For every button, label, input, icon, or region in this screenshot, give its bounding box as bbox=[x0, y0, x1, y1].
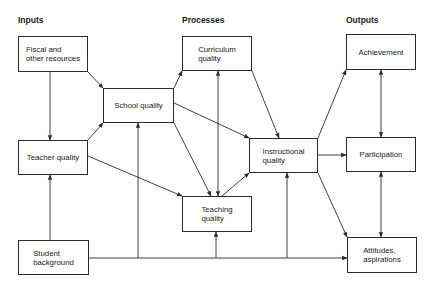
node-participation: Participation bbox=[346, 137, 416, 172]
node-teaching-quality: Teaching quality bbox=[182, 196, 252, 232]
node-participation-label: Participation bbox=[360, 150, 403, 159]
node-school-quality: School quality bbox=[103, 88, 174, 123]
edge-teacher-teaching bbox=[88, 156, 182, 196]
header-outputs: Outputs bbox=[346, 15, 379, 25]
edge-instructional-achievement bbox=[318, 70, 346, 138]
edge-instructional-attitudes bbox=[318, 173, 347, 237]
node-teacher-quality: Teacher quality bbox=[18, 140, 88, 175]
header-inputs: Inputs bbox=[18, 15, 44, 25]
node-instructional-quality-label: Instructional quality bbox=[262, 147, 304, 165]
node-student-background: Student background bbox=[18, 240, 89, 275]
edge-school-curriculum bbox=[174, 71, 182, 88]
node-achievement: Achievement bbox=[346, 34, 416, 70]
node-instructional-quality: Instructional quality bbox=[249, 138, 318, 173]
edge-fiscal-school bbox=[88, 72, 103, 88]
node-fiscal-label: Fiscal and other resources bbox=[26, 45, 80, 63]
node-attitudes: Attitudes, aspirations bbox=[347, 237, 417, 273]
node-curriculum-quality: Curriculum quality bbox=[182, 36, 252, 71]
edge-curriculum-instructional bbox=[252, 71, 279, 138]
node-teaching-quality-label: Teaching quality bbox=[201, 205, 232, 223]
edge-school-instructional bbox=[174, 103, 249, 138]
node-attitudes-label: Attitudes, aspirations bbox=[363, 246, 401, 264]
node-curriculum-quality-label: Curriculum quality bbox=[198, 45, 236, 63]
node-school-quality-label: School quality bbox=[114, 101, 163, 110]
node-fiscal: Fiscal and other resources bbox=[18, 36, 88, 72]
node-student-background-label: Student background bbox=[33, 249, 74, 267]
node-achievement-label: Achievement bbox=[358, 48, 403, 57]
edge-school-teaching bbox=[174, 123, 211, 196]
header-processes: Processes bbox=[182, 15, 225, 25]
node-teacher-quality-label: Teacher quality bbox=[27, 153, 79, 162]
edge-teaching-instructional bbox=[222, 173, 249, 196]
edge-teacher-school bbox=[88, 123, 103, 140]
